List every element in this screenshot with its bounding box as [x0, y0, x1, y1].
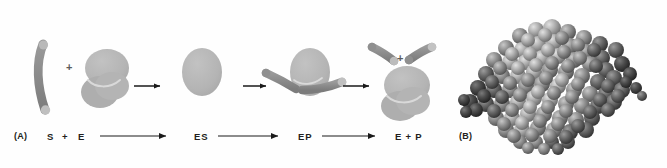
enzyme-free-stage1 [81, 49, 129, 108]
figure-graphics [0, 0, 667, 168]
figure-container: (A) (B) S + E ES EP E + P + + [0, 0, 667, 168]
stage-free-substrate-and-enzyme [38, 40, 129, 114]
plus-products-icon: + [397, 53, 403, 64]
reaction-term-es: ES [194, 131, 208, 142]
reaction-term-s: S [47, 131, 54, 142]
stage-enzyme-substrate-complex [182, 48, 222, 96]
stage-enzyme-product-complex [262, 48, 347, 96]
substrate-rod-free [38, 40, 50, 114]
reaction-term-e: E [78, 131, 85, 142]
plus-substrate-enzyme-icon: + [66, 62, 72, 73]
protein-space-filling-model [458, 19, 647, 155]
enzyme-blob-es [182, 48, 222, 96]
enzyme-free-stage4 [381, 66, 430, 121]
product-rod-right-free [405, 43, 437, 65]
reaction-term-ep: EP [298, 131, 312, 142]
panel-label-b: (B) [459, 131, 472, 141]
panel-label-a: (A) [14, 131, 27, 141]
reaction-term-e-p: E + P [395, 131, 423, 142]
product-rod-left-free [368, 43, 399, 66]
reaction-plus-s-e: + [62, 131, 68, 142]
